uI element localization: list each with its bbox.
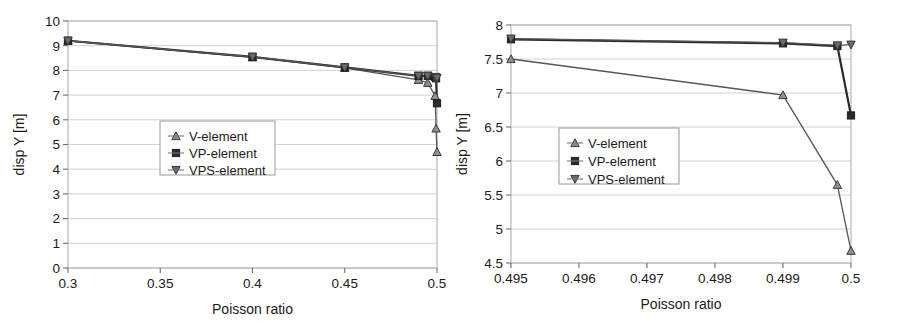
x-axis-label: Poisson ratio <box>212 301 293 317</box>
left-chart-svg: 0123456789100.30.350.40.450.5Poisson rat… <box>0 0 451 327</box>
y-tick-label: 8 <box>495 18 503 33</box>
y-tick-label: 7 <box>495 86 503 101</box>
legend-item-label: VPS-element <box>588 172 665 187</box>
y-tick-label: 0 <box>52 261 60 276</box>
data-point-marker <box>847 247 855 255</box>
y-tick-label: 6.5 <box>484 120 503 135</box>
legend: V-elementVP-elementVPS-element <box>160 121 275 178</box>
x-tick-label: 0.4 <box>243 276 262 291</box>
y-tick-label: 9 <box>52 39 60 54</box>
right-chart-svg: 4.555.566.577.580.4950.4960.4970.4980.49… <box>451 0 902 327</box>
data-point-marker <box>433 100 440 107</box>
y-tick-label: 2 <box>52 211 60 226</box>
x-tick-label: 0.498 <box>698 271 732 286</box>
y-tick-label: 8 <box>52 63 60 78</box>
chart-panel-left: 0123456789100.30.350.40.450.5Poisson rat… <box>0 0 451 327</box>
legend-item-label: VP-element <box>189 146 257 161</box>
y-tick-label: 6 <box>52 113 60 128</box>
y-tick-label: 6 <box>495 154 503 169</box>
y-tick-label: 4.5 <box>484 256 503 271</box>
y-axis-label: disp Y [m] <box>11 114 27 176</box>
legend-item-label: VPS-element <box>189 163 266 178</box>
y-tick-label: 5 <box>495 222 503 237</box>
legend-item-label: VP-element <box>588 154 656 169</box>
y-axis-label: disp Y [m] <box>454 113 470 175</box>
data-point-marker <box>432 124 440 132</box>
data-point-marker <box>833 181 841 189</box>
x-tick-label: 0.495 <box>494 271 528 286</box>
y-tick-label: 10 <box>45 14 60 29</box>
y-tick-label: 5 <box>52 137 60 152</box>
y-tick-label: 7.5 <box>484 52 503 67</box>
x-tick-label: 0.3 <box>59 276 78 291</box>
x-tick-label: 0.497 <box>630 271 664 286</box>
legend: V-elementVP-elementVPS-element <box>559 128 679 187</box>
x-tick-label: 0.499 <box>766 271 800 286</box>
x-axis-label: Poisson ratio <box>641 296 722 312</box>
series-markers <box>507 36 854 119</box>
y-tick-label: 7 <box>52 88 60 103</box>
y-tick-label: 5.5 <box>484 188 503 203</box>
series-markers <box>64 37 441 82</box>
x-tick-label: 0.45 <box>332 276 358 291</box>
y-tick-label: 3 <box>52 187 60 202</box>
y-tick-label: 1 <box>52 236 60 251</box>
figure-two-panel-chart: 0123456789100.30.350.40.450.5Poisson rat… <box>0 0 902 327</box>
legend-item-label: V-element <box>189 129 248 144</box>
legend-item-label: V-element <box>588 136 647 151</box>
x-tick-label: 0.496 <box>562 271 596 286</box>
x-tick-label: 0.35 <box>147 276 173 291</box>
chart-panel-right: 4.555.566.577.580.4950.4960.4970.4980.49… <box>451 0 902 327</box>
series-line <box>511 39 851 115</box>
y-tick-label: 4 <box>52 162 60 177</box>
x-tick-label: 0.5 <box>842 271 861 286</box>
data-point-marker <box>847 112 854 119</box>
x-tick-label: 0.5 <box>428 276 447 291</box>
data-point-marker <box>433 148 441 156</box>
